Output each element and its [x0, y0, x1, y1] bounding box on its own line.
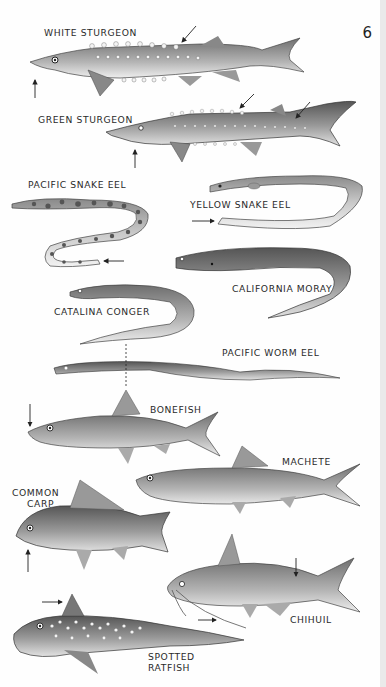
label-chihuil: CHIHUIL: [290, 614, 332, 625]
label-common-carp-line2: CARP: [12, 498, 59, 509]
label-bonefish: BONEFISH: [150, 404, 202, 415]
label-catalina-conger: CATALINA CONGER: [54, 306, 150, 317]
label-white-sturgeon: WHITE STURGEON: [44, 27, 137, 38]
label-spotted-ratfish-line2: RATFISH: [148, 662, 195, 673]
label-machete: MACHETE: [282, 456, 331, 467]
label-green-sturgeon: GREEN STURGEON: [38, 114, 133, 125]
spotted-ratfish-illustration: [14, 594, 244, 674]
pacific-snake-eel-illustration: [12, 199, 148, 267]
label-pacific-worm-eel: PACIFIC WORM EEL: [222, 347, 319, 358]
label-pacific-snake-eel: PACIFIC SNAKE EEL: [28, 179, 126, 190]
bonefish-illustration: [28, 390, 220, 464]
field-guide-plate-page: 6 WHITE STURGEON GREEN STURGEON PACIFIC …: [0, 0, 386, 687]
label-spotted-ratfish: SPOTTED RATFISH: [148, 651, 195, 673]
label-spotted-ratfish-line1: SPOTTED: [148, 651, 195, 662]
label-california-moray: CALIFORNIA MORAY: [232, 283, 332, 294]
label-common-carp-line1: COMMON: [12, 487, 59, 498]
fish-illustrations: [0, 0, 386, 687]
label-yellow-snake-eel: YELLOW SNAKE EEL: [190, 199, 291, 210]
page-number: 6: [362, 24, 372, 42]
label-common-carp: COMMON CARP: [12, 487, 59, 509]
green-sturgeon-illustration: [106, 94, 356, 168]
